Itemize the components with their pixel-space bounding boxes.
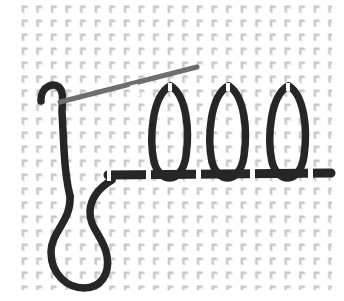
ink-stroke-baseline-bar	[108, 173, 331, 175]
ink-break-break-baseline-1	[107, 169, 111, 181]
ink-break-break-loop2-top	[226, 83, 230, 91]
ink-stroke-loop-3	[270, 86, 306, 178]
ink-break-break-baseline-4	[250, 168, 255, 180]
ink-break-break-baseline-2	[146, 169, 151, 181]
ink-stroke-loop-1	[152, 86, 188, 178]
ink-break-break-baseline-3	[196, 169, 201, 181]
ink-stroke-loop-2	[210, 86, 246, 178]
ink-break-break-loop3-top	[286, 83, 290, 91]
stroke-layer	[41, 67, 331, 288]
drawing-canvas	[0, 0, 344, 301]
ink-break-break-loop1-top	[168, 83, 172, 91]
ink-stroke-descender-loop	[51, 180, 112, 288]
ink-drawing	[0, 0, 344, 301]
ink-break-break-baseline-5	[308, 168, 313, 180]
